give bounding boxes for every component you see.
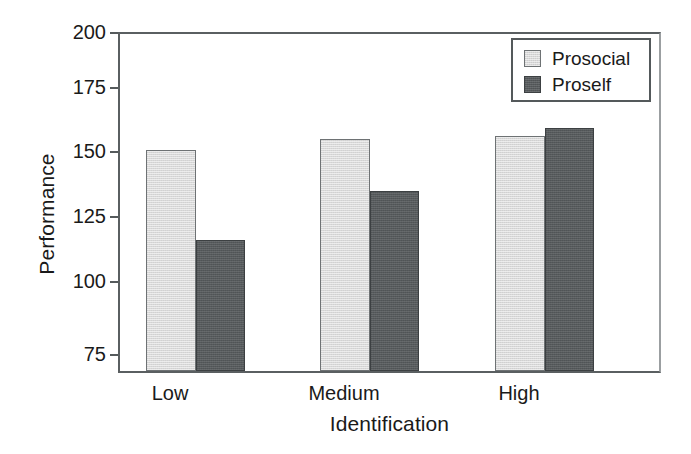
bar-prosocial-low bbox=[146, 150, 196, 371]
y-tick-label: 125 bbox=[54, 206, 106, 226]
legend-label-prosocial: Prosocial bbox=[552, 49, 630, 68]
y-tick-label: 100 bbox=[54, 271, 106, 291]
x-tick-label-medium: Medium bbox=[264, 382, 424, 404]
legend: Prosocial Proself bbox=[511, 38, 651, 102]
legend-label-proself: Proself bbox=[552, 75, 611, 94]
legend-swatch-icon-prosocial bbox=[524, 50, 541, 67]
y-tick-label: 75 bbox=[54, 344, 106, 364]
x-tick-label-low: Low bbox=[90, 382, 250, 404]
y-tick-label: 175 bbox=[54, 77, 106, 97]
bar-proself-low bbox=[196, 240, 245, 371]
bar-proself-medium bbox=[370, 191, 419, 371]
legend-item-proself: Proself bbox=[524, 71, 649, 97]
legend-item-prosocial: Prosocial bbox=[524, 45, 649, 71]
bar-chart-figure: Performance 200 175 150 125 100 75 Proso… bbox=[0, 0, 691, 454]
bar-proself-high bbox=[545, 128, 594, 371]
y-tick-label: 200 bbox=[54, 22, 106, 42]
bar-prosocial-medium bbox=[320, 139, 370, 371]
bar-prosocial-high bbox=[495, 136, 545, 371]
x-axis-title: Identification bbox=[118, 412, 661, 436]
x-tick-label-high: High bbox=[439, 382, 599, 404]
plot-area: Prosocial Proself bbox=[118, 32, 661, 373]
legend-swatch-icon-proself bbox=[524, 76, 541, 93]
y-tick-label: 150 bbox=[54, 141, 106, 161]
